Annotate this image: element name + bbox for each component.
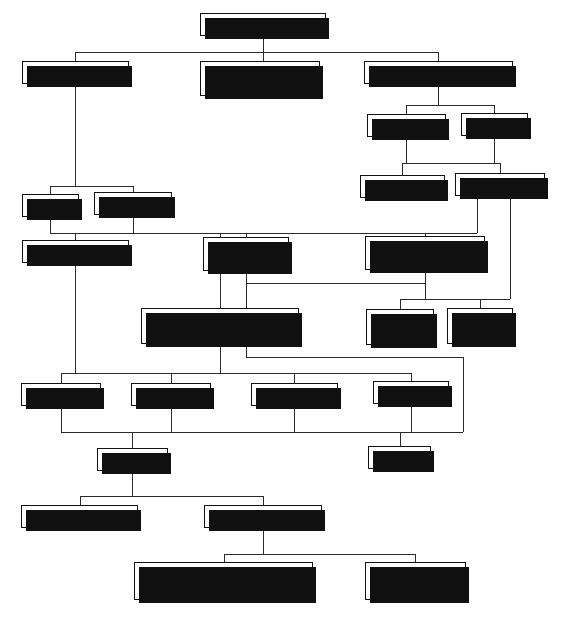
node-label-single_feed: Single feed (vented secondary only): [173, 567, 273, 595]
node-label-instantaneous_type: Instantaneous type: [389, 66, 488, 80]
node-system_choice[interactable]: System choice: [200, 13, 326, 36]
node-label-inst_gas_fired: Gas-fired: [380, 119, 432, 133]
node-label-direct: Direct: [381, 451, 417, 465]
node-label-vented: Vented: [30, 199, 71, 213]
node-boiler_solid_fuel[interactable]: Solid fuel: [251, 383, 338, 406]
node-single_feed[interactable]: Single feed (vented secondary only): [134, 562, 313, 600]
node-electric_immersion[interactable]: Electric immersion heater in storage ves…: [141, 308, 299, 344]
node-unvented[interactable]: Unvented: [94, 192, 172, 215]
node-outlet_control[interactable]: Outlet control: [447, 308, 513, 344]
node-label-inlet_control: Inlet control: [380, 313, 420, 341]
node-vented_primary[interactable]: Vented primary: [204, 505, 322, 528]
node-inlet_control[interactable]: Inlet control: [366, 309, 434, 345]
node-indirect[interactable]: Indirect: [97, 448, 168, 471]
node-label-electric_immersion: Electric immersion heater in storage ves…: [159, 312, 281, 340]
node-label-system_choice: System choice: [224, 18, 302, 32]
node-water_jacketed[interactable]: Water-jacketed tube type: [200, 61, 320, 96]
node-double_feed[interactable]: Double feed: [365, 562, 466, 600]
node-label-boiler_system: Boiler system: [39, 245, 111, 259]
node-boiler_system[interactable]: Boiler system: [22, 240, 129, 263]
node-label-boiler_electric: Electric: [389, 386, 432, 400]
node-multi_point[interactable]: Multi-point: [360, 175, 445, 198]
node-label-indirect: Indirect: [111, 453, 154, 467]
node-label-storage_type: Storage type: [41, 66, 110, 80]
node-label-double_feed: Double feed: [383, 574, 449, 588]
node-label-gas_fired_heater: Gas-fired heater: [220, 240, 272, 268]
node-vented[interactable]: Vented: [22, 194, 79, 217]
node-boiler_gas_fired[interactable]: Gas-fired: [21, 383, 101, 406]
node-single_point[interactable]: Single-point: [455, 173, 545, 196]
node-label-outlet_control: Outlet control: [460, 312, 500, 340]
node-boiler_oil_fired[interactable]: Oil-fired: [131, 383, 211, 406]
node-label-sealed_primary: Sealed primary: [39, 510, 119, 524]
node-label-boiler_gas_fired: Gas-fired: [35, 388, 87, 402]
node-label-water_jacketed: Water-jacketed tube type: [220, 65, 300, 93]
node-label-vented_primary: Vented primary: [223, 510, 303, 524]
node-sealed_primary[interactable]: Sealed primary: [21, 505, 138, 528]
node-inst_gas_fired[interactable]: Gas-fired: [367, 114, 446, 137]
node-label-electric_water_heater: Electric water heater: [389, 239, 461, 267]
node-label-inst_electric: Electric: [473, 118, 516, 132]
node-inst_electric[interactable]: Electric: [461, 113, 528, 136]
flowchart-canvas: System choiceStorage typeWater-jacketed …: [0, 0, 565, 618]
node-label-single_point: Single-point: [468, 178, 533, 192]
node-boiler_electric[interactable]: Electric: [373, 381, 449, 404]
node-storage_type[interactable]: Storage type: [22, 61, 129, 84]
node-label-boiler_oil_fired: Oil-fired: [148, 388, 194, 402]
node-electric_water_heater[interactable]: Electric water heater: [365, 236, 485, 270]
node-label-unvented: Unvented: [106, 197, 160, 211]
node-direct[interactable]: Direct: [368, 446, 431, 469]
node-label-boiler_solid_fuel: Solid fuel: [268, 388, 320, 402]
node-label-multi_point: Multi-point: [374, 180, 432, 194]
node-gas_fired_heater[interactable]: Gas-fired heater: [203, 237, 289, 271]
node-instantaneous_type[interactable]: Instantaneous type: [364, 61, 513, 84]
